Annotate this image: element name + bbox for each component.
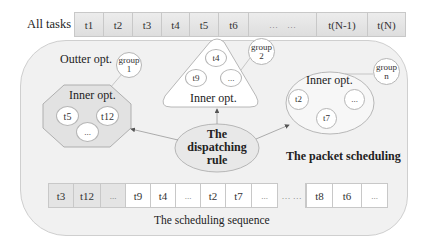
- sequence-cell: t2: [201, 183, 226, 208]
- sequence-cell: t3: [48, 183, 74, 208]
- task-node: ...: [344, 89, 365, 110]
- packet-scheduling-label: The packet scheduling: [286, 149, 401, 164]
- sequence-cell: ...: [362, 183, 388, 208]
- task-node: t5: [56, 106, 79, 126]
- sequence-cell: ...: [252, 183, 278, 208]
- group-2-inner-opt-label: Inner opt.: [190, 91, 237, 106]
- group-1-inner-opt-label: Inner opt.: [69, 88, 116, 103]
- group-n-inner-opt-label: Inner opt.: [306, 73, 353, 88]
- arrow-to-group-1: [131, 129, 178, 140]
- group-1-connector: [110, 74, 122, 88]
- task-node: t4: [205, 49, 227, 67]
- sequence-cell: t6: [333, 183, 362, 208]
- group-1-badge: group 1: [116, 52, 142, 78]
- sequence-cell: t4: [151, 183, 176, 208]
- sequence-gap: … …: [278, 183, 306, 208]
- group-n-badge: group n: [373, 58, 400, 85]
- task-node: t2: [288, 89, 309, 110]
- scheduling-sequence-label: The scheduling sequence: [154, 214, 270, 226]
- task-node: t12: [96, 106, 119, 126]
- task-node: t9: [185, 69, 207, 87]
- task-node: ...: [220, 69, 242, 87]
- task-node: ...: [76, 122, 99, 142]
- sequence-cell: t7: [226, 183, 252, 208]
- sequence-cell: ...: [101, 183, 126, 208]
- group-2-badge: group 2: [248, 38, 275, 65]
- sequence-cell: t12: [74, 183, 101, 208]
- outer-opt-label: Outter opt.: [60, 52, 112, 67]
- scheduling-sequence-row: t3 t12 ... t9 t4 ... t2 t7 ... … … t8 t6…: [48, 183, 388, 208]
- arrow-to-group-n: [256, 125, 289, 139]
- sequence-cell: t9: [126, 183, 151, 208]
- dispatching-rule-label: The dispatching rule: [180, 128, 254, 167]
- task-node: t7: [316, 108, 337, 129]
- sequence-cell: ...: [176, 183, 201, 208]
- sequence-cell: t8: [306, 183, 333, 208]
